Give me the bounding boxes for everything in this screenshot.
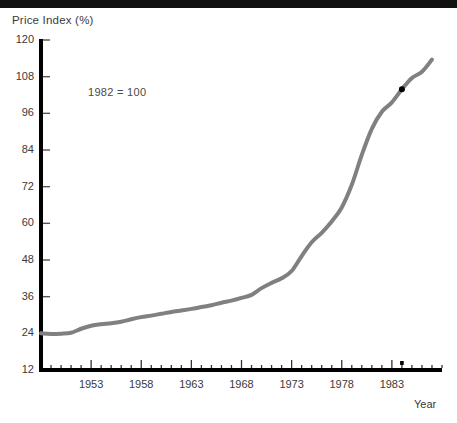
axes	[39, 39, 442, 370]
data-point-markers	[399, 86, 405, 365]
price-index-line	[41, 60, 432, 334]
price-index-line-chart: Price Index (%) 1982 = 100 Year 12243648…	[0, 0, 457, 423]
plot-area	[0, 0, 457, 423]
axis-ticks	[43, 40, 442, 368]
